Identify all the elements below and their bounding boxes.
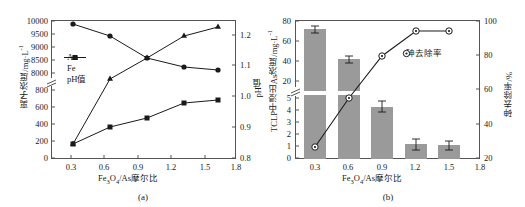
a-legend-item-ph: pH值 (63, 74, 86, 85)
a-plot-svg (0, 0, 262, 207)
b-legend-label-removal-rate: 砷去除率 (406, 49, 442, 58)
a-series-ph (70, 24, 221, 146)
panel-b: 80 60 40 20 5 4 3 2 1 0 100 80 60 40 20 … (262, 0, 525, 207)
panel-a: 10000 9500 9000 8500 8000 800 600 400 20… (0, 0, 262, 207)
figure-container: 10000 9500 9000 8500 8000 800 600 400 20… (0, 0, 525, 207)
a-legend-label-fe: Fe (67, 64, 76, 73)
b-legend-item-removal-rate: 砷去除率 (402, 48, 442, 59)
a-series-fe (71, 98, 221, 147)
b-axis-break-gap (296, 91, 476, 95)
a-ticks (51, 21, 236, 159)
b-axis-break-icon (291, 87, 300, 96)
b-legend-marker-circle-dot (402, 48, 411, 59)
a-legend-marker-triangle (63, 52, 87, 63)
b-legend: 砷去除率 (402, 48, 442, 59)
a-axis-break-icon (47, 78, 56, 87)
a-legend: As Fe pH值 (63, 52, 86, 85)
a-legend-label-ph: pH值 (67, 75, 86, 84)
a-legend-item-fe: Fe (63, 63, 86, 74)
b-plot-svg (262, 0, 525, 207)
a-series-as (70, 21, 220, 72)
